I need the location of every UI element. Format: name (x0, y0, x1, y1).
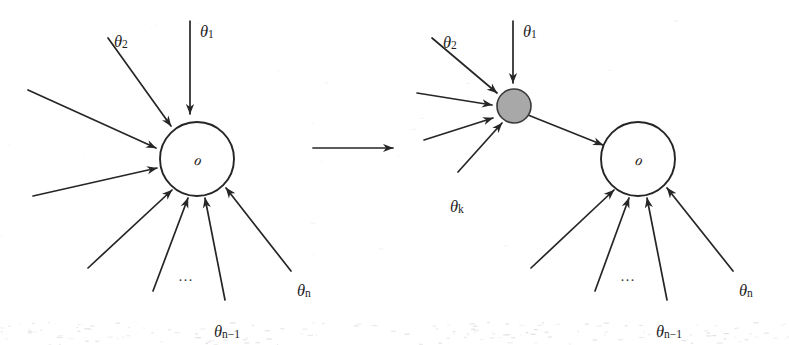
scan-speckle (266, 338, 272, 339)
scan-speckle (519, 325, 524, 326)
after-theta-n-1-arrow (647, 198, 667, 300)
scan-speckle (480, 339, 484, 340)
scan-speckle (90, 326, 95, 327)
scan-speckle (754, 337, 758, 338)
scan-speckle (69, 338, 74, 339)
scan-speckle (674, 21, 679, 22)
after-theta-k-label: θk (450, 197, 464, 216)
scan-speckle (447, 324, 450, 325)
scan-speckle (29, 330, 31, 331)
scan-speckle (84, 328, 90, 329)
after-theta-2-label: θ2 (443, 33, 457, 52)
after-ellipsis: … (620, 268, 636, 284)
scan-speckle (142, 327, 145, 328)
after-theta-n-1-label: θn−1 (656, 322, 682, 341)
scan-speckle (487, 322, 489, 323)
scan-speckle (750, 333, 752, 334)
scan-speckle (498, 337, 500, 338)
scan-speckle (437, 97, 439, 98)
figure-container: θ1θ2θn−1θnℴ…θ1θ2θkθn−1θnℴ… (0, 0, 789, 345)
scan-speckle (544, 332, 548, 333)
scan-speckle (354, 325, 357, 326)
scan-speckle (311, 223, 316, 224)
scan-speckle (252, 136, 255, 137)
scan-speckle (277, 70, 280, 71)
scan-speckle (150, 28, 151, 29)
scan-speckle (439, 343, 442, 344)
scan-speckle (405, 334, 410, 335)
scan-speckle (82, 324, 83, 325)
scan-speckle (57, 337, 63, 338)
scan-speckle (608, 70, 611, 71)
scan-speckle (421, 118, 425, 119)
scan-speckle (643, 332, 645, 333)
scan-speckle (195, 23, 199, 24)
scan-speckle (492, 332, 493, 333)
scan-speckle (200, 328, 205, 329)
scan-speckle (625, 325, 628, 326)
scan-speckle (474, 332, 476, 333)
scan-speckle (155, 24, 157, 25)
scan-speckle (724, 333, 729, 334)
scan-speckle (311, 123, 314, 124)
scan-speckle (511, 337, 515, 338)
scan-speckle (504, 245, 508, 246)
before-ellipsis: … (178, 268, 194, 284)
scan-speckle (505, 323, 509, 324)
after-aggregate-node (497, 89, 531, 123)
scan-speckle (618, 339, 624, 340)
scan-speckle (453, 334, 455, 335)
scan-speckle (206, 343, 208, 344)
scan-speckle (526, 332, 529, 333)
scan-speckle (168, 329, 171, 330)
scan-speckle (315, 335, 317, 336)
scan-speckle (28, 331, 33, 332)
scan-speckle (372, 325, 378, 326)
scan-speckle (453, 331, 456, 332)
scan-speckle (116, 323, 121, 324)
scan-speckle (469, 323, 474, 324)
before-output-node-label: ℴ (193, 150, 202, 169)
scan-speckle (78, 331, 81, 332)
scan-speckle (690, 334, 692, 335)
scan-speckle (256, 342, 261, 343)
after-input-arrow-5 (531, 190, 614, 268)
scan-speckle (397, 155, 400, 156)
after-theta-1-label: θ1 (523, 22, 537, 41)
scan-speckle (117, 338, 119, 339)
scan-speckle (8, 144, 10, 145)
scan-speckle (195, 337, 201, 338)
scan-speckle (542, 322, 544, 323)
scan-speckle (507, 342, 513, 343)
scan-speckle (302, 329, 307, 330)
scan-speckle (433, 326, 437, 327)
scan-speckle (391, 331, 396, 332)
scan-speckle (781, 325, 783, 326)
scan-speckle (379, 248, 383, 249)
scan-speckle (280, 328, 284, 329)
scan-speckle (473, 326, 477, 327)
scan-speckle (1, 327, 5, 328)
scan-speckle (786, 339, 787, 340)
scan-speckle (586, 324, 588, 325)
scan-speckle (357, 324, 362, 325)
scan-speckle (467, 83, 470, 84)
scan-speckle (724, 338, 727, 339)
scan-speckle (207, 342, 211, 343)
scan-speckle (707, 333, 710, 334)
scan-speckle (604, 323, 610, 324)
scan-speckle (783, 323, 786, 324)
before-input-arrow-4 (33, 168, 157, 196)
scan-speckle (471, 329, 475, 330)
scan-speckle (5, 338, 8, 339)
after-aggregate-to-node-arrow (528, 115, 603, 145)
scan-speckle (696, 325, 698, 326)
scan-speckle (787, 337, 789, 338)
before-theta-n-1-label: θn−1 (214, 322, 240, 341)
scan-noise-layer (1, 21, 789, 345)
before-theta-2-arrow (108, 38, 171, 126)
scan-speckle (151, 332, 154, 333)
scan-speckle (639, 325, 643, 326)
after-input-arrow-4 (424, 118, 493, 140)
scan-speckle (764, 333, 769, 334)
